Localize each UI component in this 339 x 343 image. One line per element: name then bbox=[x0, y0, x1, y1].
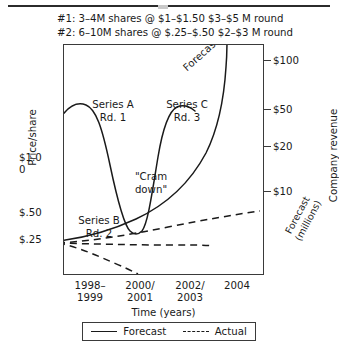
chart-legend: Forecast Actual bbox=[82, 322, 256, 341]
y-axis-left-tick-50cent: $.50 bbox=[19, 207, 67, 219]
annotation-series-c: Series C Rd. 3 bbox=[150, 99, 224, 124]
y-axis-right-tick-10: $10 bbox=[264, 186, 292, 197]
tick-mark-icon bbox=[264, 109, 271, 110]
legend-label-actual: Actual bbox=[215, 326, 247, 337]
header-notes: #1: 3–4M shares @ $1–$1.50 $3–$5 M round… bbox=[57, 12, 293, 39]
y-axis-right-note: Forecast (millions) bbox=[282, 193, 323, 243]
annotation-series-a: Series A Rd. 1 bbox=[76, 99, 150, 124]
x-axis-tick-2004: 2004 bbox=[209, 280, 265, 292]
x-axis-tick-1998-1999: 1998– 1999 bbox=[62, 280, 118, 305]
plot-area: Series A Rd. 1 Series C Rd. 3 "Cram down… bbox=[63, 44, 264, 275]
actual-curve-flat bbox=[64, 243, 214, 246]
y-axis-right-title: Company revenue bbox=[328, 96, 339, 216]
legend-dashed-line-icon bbox=[183, 331, 209, 332]
header-divider bbox=[8, 5, 330, 7]
actual-curve-declining bbox=[64, 243, 138, 274]
legend-item-actual: Actual bbox=[183, 326, 247, 337]
legend-solid-line-icon bbox=[91, 331, 117, 332]
annotation-cram-down: "Cram down" bbox=[124, 171, 178, 196]
header-note-line-2: #2: 6–10M shares @ $.25–$.50 $2–$3 M rou… bbox=[57, 26, 293, 40]
tick-mark-icon bbox=[264, 146, 271, 147]
annotation-series-b: Series B Rd. 2 bbox=[66, 215, 132, 240]
x-axis-title: Time (years) bbox=[63, 307, 264, 318]
tick-mark-icon bbox=[264, 60, 271, 61]
legend-item-forecast: Forecast bbox=[91, 326, 166, 337]
x-axis-tick-2000-2001: 2000/ 2001 bbox=[112, 280, 168, 305]
header-note-line-1: #1: 3–4M shares @ $1–$1.50 $3–$5 M round bbox=[57, 12, 293, 26]
y-axis-right-tick-50: $50 bbox=[264, 104, 292, 115]
header-divider-nub bbox=[158, 5, 168, 9]
legend-label-forecast: Forecast bbox=[123, 326, 166, 337]
y-axis-right-tick-20: $20 bbox=[264, 141, 292, 152]
forecast-curve-line bbox=[64, 45, 227, 241]
y-axis-right-tick-100: $100 bbox=[264, 55, 299, 66]
y-axis-left-tick-25cent: $.25 bbox=[19, 234, 67, 246]
y-axis-left-tick-1dollar: $1.0 0 bbox=[19, 152, 67, 177]
tick-mark-icon bbox=[264, 191, 271, 192]
